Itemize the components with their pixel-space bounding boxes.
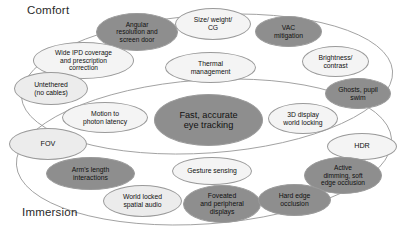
node-world-locked-spatial-audio[interactable]: World lockedspatial audio — [103, 185, 182, 217]
node-hard-edge-occlusion[interactable]: Hard edgeocclusion — [258, 184, 331, 216]
node-hdr[interactable]: HDR — [327, 133, 397, 160]
node-label: Untethered(no cables) — [34, 81, 68, 96]
node-label: Hard edgeocclusion — [279, 192, 311, 207]
node-foveated-and-peripheral-displays[interactable]: Foveatedand peripheraldisplays — [183, 185, 261, 223]
node-label: Thermalmanagement — [191, 60, 231, 75]
node-motion-to-photon-latency[interactable]: Motion tophoton latency — [62, 102, 148, 133]
node-label: Wide IPD coverageand prescriptioncorrect… — [55, 49, 112, 72]
node-3d-display-world-locking[interactable]: 3D displayworld locking — [268, 103, 338, 134]
node-label: Angularresolution andscreen door — [116, 21, 157, 44]
node-label: HDR — [354, 142, 370, 150]
node-label: FOV — [41, 140, 56, 148]
node-label: Fast, accurateeye tracking — [179, 110, 237, 131]
node-label: Activedimming, softedge occlusion — [321, 164, 365, 187]
node-untethered-no-cables[interactable]: Untethered(no cables) — [14, 72, 88, 105]
group-label-comfort: Comfort — [27, 4, 69, 16]
node-label: Gesture sensing — [187, 167, 237, 175]
venn-diagram: Comfort Immersion Angularresolution ands… — [0, 0, 409, 232]
node-label: Motion tophoton latency — [83, 110, 127, 125]
node-label: Brightness/contrast — [318, 54, 352, 69]
node-label: VACmitigation — [274, 24, 303, 39]
node-label: Ghosts, pupilswim — [338, 86, 378, 101]
node-size-weight-cg[interactable]: Size/ weight/CG — [175, 8, 251, 40]
group-label-immersion: Immersion — [22, 206, 77, 218]
node-arms-length-interactions[interactable]: Arm's lengthinteractions — [46, 157, 135, 190]
node-fast-accurate-eye-tracking[interactable]: Fast, accurateeye tracking — [154, 94, 263, 146]
node-label: World lockedspatial audio — [123, 193, 162, 208]
node-label: Foveatedand peripheraldisplays — [200, 192, 243, 215]
node-vac-mitigation[interactable]: VACmitigation — [255, 16, 322, 47]
node-label: 3D displayworld locking — [283, 111, 322, 126]
node-gesture-sensing[interactable]: Gesture sensing — [172, 157, 252, 185]
node-brightness-contrast[interactable]: Brightness/contrast — [302, 46, 369, 77]
node-ghosts-pupil-swim[interactable]: Ghosts, pupilswim — [325, 78, 391, 109]
node-thermal-management[interactable]: Thermalmanagement — [165, 52, 256, 83]
node-fov[interactable]: FOV — [9, 128, 87, 160]
node-label: Size/ weight/CG — [194, 16, 233, 31]
node-label: Arm's lengthinteractions — [72, 166, 110, 181]
